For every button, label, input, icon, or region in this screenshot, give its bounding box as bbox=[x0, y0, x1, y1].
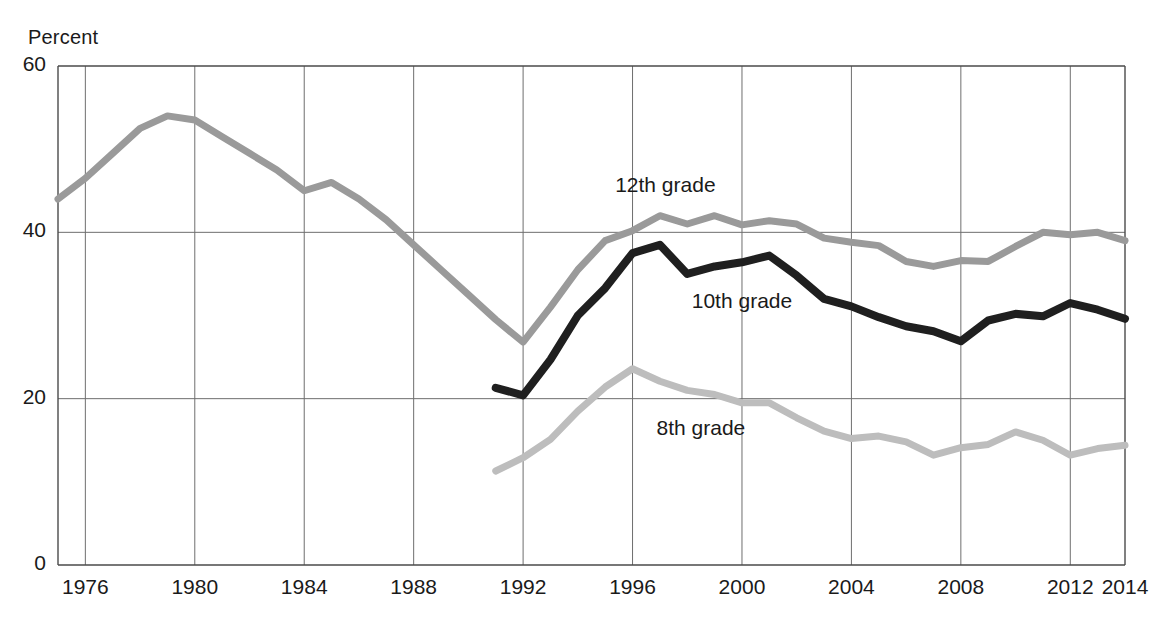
x-tick-label-2000: 2000 bbox=[719, 575, 766, 599]
series-label-10th-grade: 10th grade bbox=[692, 289, 792, 313]
series-line-10th-grade bbox=[496, 245, 1125, 396]
x-tick-label-1992: 1992 bbox=[500, 575, 547, 599]
y-tick-label-20: 20 bbox=[0, 385, 46, 409]
series-label-8th-grade: 8th grade bbox=[657, 416, 746, 440]
y-tick-label-40: 40 bbox=[0, 218, 46, 242]
x-tick-label-1976: 1976 bbox=[62, 575, 109, 599]
x-tick-label-2004: 2004 bbox=[828, 575, 875, 599]
line-chart-plot bbox=[0, 0, 1166, 620]
x-tick-label-2008: 2008 bbox=[937, 575, 984, 599]
series-label-12th-grade: 12th grade bbox=[615, 173, 715, 197]
series-line-12th-grade bbox=[58, 116, 1125, 342]
series-line-8th-grade bbox=[496, 369, 1125, 471]
x-tick-label-1980: 1980 bbox=[171, 575, 218, 599]
plot-frame bbox=[58, 66, 1125, 565]
y-tick-label-0: 0 bbox=[0, 551, 46, 575]
chart-container: Percent 0204060 197619801984198819921996… bbox=[0, 0, 1166, 620]
x-tick-label-2014: 2014 bbox=[1102, 575, 1149, 599]
data-series-group bbox=[58, 116, 1125, 471]
x-tick-label-1988: 1988 bbox=[390, 575, 437, 599]
x-tick-label-1996: 1996 bbox=[609, 575, 656, 599]
x-tick-label-2012: 2012 bbox=[1047, 575, 1094, 599]
x-tick-label-1984: 1984 bbox=[281, 575, 328, 599]
gridlines bbox=[58, 66, 1125, 565]
y-tick-label-60: 60 bbox=[0, 52, 46, 76]
